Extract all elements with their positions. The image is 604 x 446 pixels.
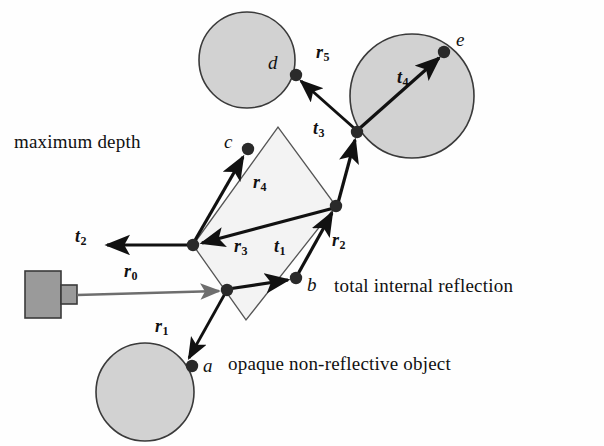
- vector-label-r0: r0: [124, 261, 138, 284]
- vector-letter-r5: r: [316, 42, 323, 62]
- node-upper-right-vertex: [330, 200, 342, 212]
- vector-index-r2: 2: [339, 238, 346, 252]
- node-entry-point: [221, 284, 233, 296]
- vector-index-r0: 0: [131, 269, 138, 283]
- vector-index-r3: 3: [241, 244, 248, 258]
- camera-lens: [61, 285, 77, 304]
- vector-index-t3: 3: [318, 126, 325, 140]
- ray-r5: [301, 81, 354, 128]
- vector-label-t2: t2: [75, 226, 87, 249]
- point-label-b: b: [307, 274, 317, 296]
- vector-letter-r4: r: [253, 172, 260, 192]
- node-sphere-e-contact: [351, 126, 363, 138]
- vector-label-r3: r3: [234, 236, 248, 259]
- node-point-d: [290, 69, 302, 81]
- node-point-a: [186, 360, 198, 372]
- node-point-c: [242, 143, 254, 155]
- figure-canvas: maximum depth total internal reflection …: [0, 0, 604, 446]
- vector-label-t4: t4: [397, 67, 409, 90]
- ray-diagram-svg: [0, 0, 604, 446]
- opaque-object-circle: [96, 343, 194, 441]
- vector-label-t3: t3: [313, 118, 325, 141]
- point-label-a: a: [203, 355, 213, 377]
- point-label-c: c: [224, 131, 232, 153]
- node-point-b: [290, 272, 302, 284]
- diffuse-sphere-e: [350, 34, 474, 158]
- vector-index-t2: 2: [80, 234, 87, 248]
- node-left-vertex: [187, 239, 199, 251]
- vector-label-r4: r4: [253, 172, 267, 195]
- vector-label-r5: r5: [316, 42, 330, 65]
- vector-letter-r2: r: [332, 230, 339, 250]
- ray-r1: [189, 290, 227, 358]
- vector-letter-r3: r: [234, 236, 241, 256]
- camera-body: [25, 271, 61, 318]
- label-maximum-depth: maximum depth: [14, 131, 141, 153]
- vector-letter-r0: r: [124, 261, 131, 281]
- vector-label-r1: r1: [155, 316, 169, 339]
- vector-index-r5: 5: [323, 50, 330, 64]
- vector-index-t4: 4: [402, 75, 409, 89]
- label-opaque-object: opaque non-reflective object: [228, 353, 451, 375]
- vector-index-r1: 1: [162, 324, 169, 338]
- ray-t3: [338, 140, 355, 203]
- vector-index-t1: 1: [279, 244, 286, 258]
- ray-r0: [77, 291, 219, 295]
- point-label-d: d: [268, 52, 278, 74]
- node-point-e: [438, 46, 450, 58]
- vector-label-r2: r2: [332, 230, 346, 253]
- point-label-e: e: [456, 29, 464, 51]
- diffuse-sphere-d: [199, 12, 295, 108]
- label-total-internal-reflection: total internal reflection: [334, 275, 513, 297]
- vector-letter-r1: r: [155, 316, 162, 336]
- vector-index-r4: 4: [260, 180, 267, 194]
- vector-label-t1: t1: [274, 236, 286, 259]
